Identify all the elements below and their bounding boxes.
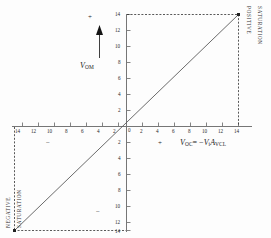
positive-saturation-label-line2: SATURATION (257, 6, 263, 45)
y-axis-label-subscript: OM (85, 64, 94, 70)
y-tick-label-neg-2: 2 (118, 140, 121, 145)
x-axis-label-equals: = − (193, 138, 204, 147)
x-tick-label-neg-12: 12 (31, 129, 36, 134)
y-tick-label-pos-6: 6 (118, 76, 121, 81)
y-tick-label-pos-12: 12 (115, 28, 120, 33)
positive-saturation-point (237, 13, 240, 16)
x-tick-label-neg-14: 14 (15, 129, 20, 134)
quadrant-sign-lower-right: + (158, 140, 162, 147)
x-tick-label-neg-10: 10 (47, 129, 52, 134)
x-axis-label-a-subscript: VCL (215, 141, 226, 147)
origin-label: 0 (128, 128, 131, 133)
negative-saturation-point (13, 229, 16, 232)
y-tick-label-neg-12: 12 (115, 220, 120, 225)
y-tick-label-pos-8: 8 (118, 60, 121, 65)
y-tick-label-neg-6: 6 (118, 172, 121, 177)
x-tick-label-neg-4: 4 (97, 129, 100, 134)
y-axis-label: VOM (80, 62, 94, 71)
positive-saturation-label-line1: POSITIVE (246, 6, 252, 34)
y-tick-label-neg-10: 10 (115, 204, 120, 209)
y-tick-label-neg-14: 14 (115, 229, 120, 234)
x-tick-label-pos-4: 4 (156, 129, 159, 134)
x-tick-label-pos-14: 14 (234, 129, 239, 134)
y-tick-label-pos-4: 4 (118, 92, 121, 97)
chart-canvas (0, 0, 271, 238)
y-axis-ticks-lower (127, 143, 131, 231)
transfer-characteristic-figure: 14 12 10 8 6 4 2 2 4 6 8 10 12 14 0 2 4 … (0, 0, 271, 238)
x-axis-ticks-left (23, 123, 119, 127)
y-tick-label-pos-2: 2 (118, 108, 121, 113)
quadrant-sign-lower-middle: − (96, 209, 100, 216)
x-axis-label-voc-subscript: OC (185, 141, 193, 147)
negative-saturation-label-line1: NEGATIVE (5, 197, 11, 228)
x-axis-ticks-right (143, 123, 239, 127)
y-tick-label-neg-8: 8 (118, 188, 121, 193)
y-tick-label-pos-14: 14 (115, 12, 120, 17)
quadrant-sign-upper-left: + (88, 14, 92, 21)
x-tick-label-pos-2: 2 (140, 129, 143, 134)
x-tick-label-neg-6: 6 (81, 129, 84, 134)
x-tick-label-neg-8: 8 (65, 129, 68, 134)
y-tick-label-neg-4: 4 (118, 156, 121, 161)
x-tick-label-neg-2: 2 (113, 129, 116, 134)
x-axis-label: VOC= −ViAVCL (180, 139, 226, 148)
vom-direction-arrow (96, 25, 103, 58)
x-tick-label-pos-8: 8 (188, 129, 191, 134)
quadrant-sign-lower-left: − (46, 140, 50, 147)
y-tick-label-pos-10: 10 (115, 44, 120, 49)
x-tick-label-pos-12: 12 (218, 129, 223, 134)
y-axis-ticks-upper (127, 15, 131, 111)
x-tick-label-pos-6: 6 (172, 129, 175, 134)
negative-saturation-label-line2: SATURATION (16, 189, 22, 228)
x-tick-label-pos-10: 10 (202, 129, 207, 134)
